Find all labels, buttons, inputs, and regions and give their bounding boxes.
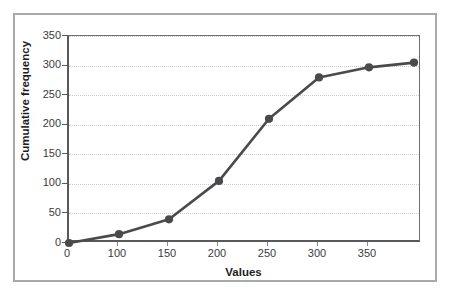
chart-figure: Cumulative frequency 0501001502002503003… — [0, 0, 452, 302]
data-point-marker — [265, 115, 273, 123]
y-axis-tick-labels: 050100150200250300350 — [28, 35, 61, 242]
data-point-marker — [410, 59, 418, 67]
x-axis-tick-label: 300 — [308, 247, 326, 259]
series-line — [69, 63, 414, 243]
x-axis-tick-label: 100 — [108, 247, 126, 259]
data-point-marker — [365, 63, 373, 71]
y-axis-tick-label: 300 — [43, 59, 61, 70]
data-point-marker — [215, 177, 223, 185]
data-point-marker — [165, 215, 173, 223]
x-axis-tick-mark — [317, 242, 318, 246]
y-axis-tick-label: 0 — [55, 237, 61, 248]
y-axis-tick-label: 350 — [43, 30, 61, 41]
x-axis-tick-mark — [117, 242, 118, 246]
data-point-marker — [65, 239, 73, 247]
x-axis-tick-label: 250 — [258, 247, 276, 259]
x-axis-title: Values — [67, 266, 420, 278]
x-axis-tick-labels: 0100150200250300350 — [67, 247, 420, 263]
x-axis-tick-mark — [167, 242, 168, 246]
y-axis-tick-label: 100 — [43, 177, 61, 188]
x-axis-tick-label: 0 — [64, 247, 70, 259]
x-axis-tick-label: 150 — [158, 247, 176, 259]
y-axis-tick-label: 200 — [43, 118, 61, 129]
x-axis-tick-mark — [267, 242, 268, 246]
data-point-marker — [315, 73, 323, 81]
y-axis-tick-label: 150 — [43, 148, 61, 159]
y-axis-tick-label: 50 — [49, 207, 61, 218]
plot-area — [67, 35, 420, 242]
y-axis-tick-label: 250 — [43, 89, 61, 100]
x-axis-tick-label: 200 — [208, 247, 226, 259]
line-series-cumulative-frequency — [69, 36, 422, 243]
x-axis-tick-label: 350 — [358, 247, 376, 259]
x-axis-tick-mark — [217, 242, 218, 246]
data-point-marker — [115, 230, 123, 238]
x-axis-tick-mark — [367, 242, 368, 246]
